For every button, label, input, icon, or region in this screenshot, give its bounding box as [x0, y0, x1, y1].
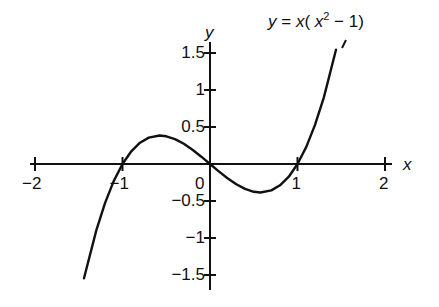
annotation-leader [342, 40, 346, 48]
function-plot [0, 0, 439, 307]
title-eq: = [277, 12, 296, 31]
x-tick-label: 0 [195, 175, 204, 192]
x-tick-label: 2 [379, 175, 388, 192]
y-tick-label: 1 [196, 81, 205, 98]
y-tick-label: −0.5 [171, 192, 205, 209]
x-axis-label: x [403, 156, 412, 173]
y-tick-label: 0.5 [181, 118, 205, 135]
title-x2: x [315, 12, 324, 31]
y-tick-label: −1.5 [171, 266, 205, 283]
y-tick-label: −1 [186, 229, 205, 246]
title-paren: ( [304, 12, 314, 31]
y-axis-label: y [205, 24, 214, 41]
x-tick-label: 1 [292, 175, 301, 192]
chart-title: y = x( x2 − 1) [268, 10, 364, 32]
x-tick-label: −1 [110, 175, 129, 192]
title-y: y [268, 12, 277, 31]
title-rest: − 1) [329, 12, 364, 31]
x-tick-label: −2 [22, 175, 41, 192]
y-tick-label: 1.5 [181, 44, 205, 61]
